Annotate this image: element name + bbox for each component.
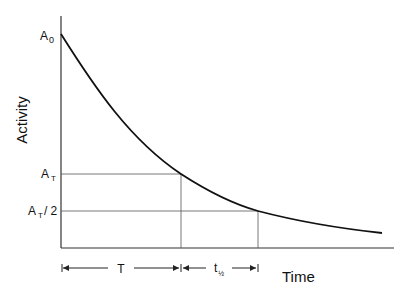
x-axis-title: Time: [282, 268, 315, 285]
t-interval-label: T: [117, 262, 125, 276]
decay-curve: [61, 34, 382, 233]
at-half-label: AT/ 2: [28, 204, 58, 220]
half-life-label: t½: [214, 261, 224, 277]
a0-label: A0: [40, 29, 54, 45]
y-axis-title: Activity: [13, 96, 30, 144]
at-label: AT: [41, 167, 56, 183]
decay-diagram: A0 AT AT/ 2 Activity Time T t½: [0, 0, 408, 296]
